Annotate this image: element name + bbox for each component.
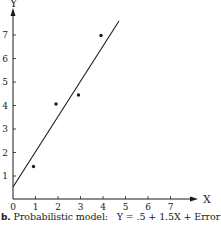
svg-text:5: 5 xyxy=(2,77,8,87)
data-point xyxy=(54,102,57,105)
y-tick-labels: 1 2 3 4 5 6 7 xyxy=(2,30,8,181)
data-point xyxy=(32,165,35,168)
caption-label: b. xyxy=(1,212,11,222)
y-axis-title: Y xyxy=(9,0,18,10)
svg-text:2: 2 xyxy=(2,148,8,158)
caption-equation: Y = .5 + 1.5X + Error term xyxy=(117,211,221,222)
x-axis-title: X xyxy=(203,193,211,206)
data-points xyxy=(32,34,103,168)
svg-text:1: 1 xyxy=(2,171,8,181)
x-axis-arrow-icon xyxy=(190,197,198,202)
figure-caption: b. Probabilistic model: Y = .5 + 1.5X + … xyxy=(1,211,221,222)
svg-text:6: 6 xyxy=(2,54,8,64)
data-point xyxy=(77,93,80,96)
svg-text:7: 7 xyxy=(2,30,8,40)
data-point xyxy=(99,34,102,37)
caption-text: Probabilistic model: xyxy=(14,211,108,222)
regression-line xyxy=(13,21,119,187)
svg-text:3: 3 xyxy=(2,124,8,134)
svg-text:4: 4 xyxy=(2,101,8,111)
scatter-plot: Y X 0 1 2 3 4 5 6 7 1 2 3 4 5 6 xyxy=(0,0,221,212)
